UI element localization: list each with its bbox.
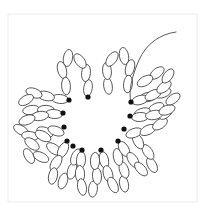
node-dot (64, 138, 69, 143)
petal-ellipse (90, 152, 100, 170)
node-dot (79, 147, 84, 152)
node-dot (127, 113, 132, 118)
node-dot (66, 97, 71, 102)
node-dot (85, 94, 90, 99)
node-dot (115, 138, 120, 143)
figure-root: Radial rosette line drawing Black-and-wh… (0, 0, 205, 212)
node-dot (70, 143, 75, 148)
node-dot (121, 126, 126, 131)
node-dot (128, 99, 133, 104)
figure-canvas (0, 0, 205, 212)
node-dot (98, 147, 103, 152)
node-dot (60, 110, 65, 115)
node-dot (61, 124, 66, 129)
